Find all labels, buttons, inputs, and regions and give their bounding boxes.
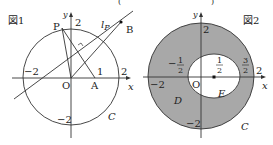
point-a-label: A	[90, 80, 99, 91]
figures-canvas: ( ) 図1 y 2 P lP B −2 1 2 O A x −2 C	[0, 0, 273, 145]
cropped-paren-left: (	[118, 0, 121, 6]
point-p-label: P	[53, 21, 60, 32]
circle-c-label-2: C	[241, 121, 249, 132]
tick-2-y-2: 2	[203, 24, 209, 35]
region-d-label: D	[173, 95, 182, 106]
cropped-paren-right: )	[211, 0, 214, 6]
point-b-dot	[119, 20, 122, 23]
axis-label-x: x	[128, 81, 134, 92]
frac-3half-den: 2	[243, 66, 248, 75]
ellipse-center-dot	[213, 76, 216, 79]
y-axis-arrow-icon-2	[199, 12, 203, 17]
line-lp-label: lP	[101, 19, 110, 32]
frac-half-den: 2	[217, 66, 222, 75]
figure1-title: 図1	[8, 15, 24, 26]
tick-1-x: 1	[97, 66, 103, 77]
tick-2-x: 2	[121, 66, 127, 77]
y-axis-arrow-icon	[69, 12, 73, 17]
figure-1: 図1 y 2 P lP B −2 1 2 O A x −2 C	[8, 10, 134, 138]
frac-3half-num: 3	[243, 56, 248, 65]
line-lp	[14, 11, 133, 99]
frac-neg-half-sign: −	[168, 58, 176, 69]
region-e-label: E	[217, 88, 226, 99]
figure2-title: 図2	[243, 15, 259, 26]
segment-ob	[71, 22, 121, 78]
tick-neg2-y: −2	[57, 114, 72, 125]
frac-neg-half-num: 1	[178, 56, 183, 65]
axis-label-x-2: x	[262, 80, 268, 91]
frac-half-num: 1	[217, 56, 222, 65]
right-angle-mark	[78, 43, 83, 46]
tick-neg2-y-2: −2	[186, 118, 201, 129]
circle-c-label: C	[108, 111, 116, 122]
origin-label-2: O	[192, 79, 200, 90]
origin-label: O	[62, 80, 70, 91]
tick-2-x-2: 2	[256, 65, 262, 76]
axis-label-y: y	[62, 10, 68, 19]
figure-2: y 図2 2 − 1 2 1 2 3 2 2 −2 O x E D −2 C	[143, 10, 268, 138]
tick-2-y: 2	[75, 17, 81, 28]
tick-neg2-x: −2	[24, 66, 39, 77]
tick-neg2-x-2: −2	[150, 79, 165, 90]
frac-neg-half-den: 2	[178, 66, 183, 75]
point-b-label: B	[126, 24, 133, 35]
axis-label-y-2: y	[192, 10, 198, 19]
